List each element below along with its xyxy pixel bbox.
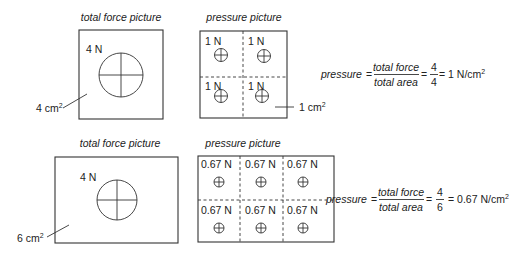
- top-cell-force-label: 1 N: [248, 35, 264, 47]
- top-area-leader-line: [63, 94, 87, 108]
- bottom-cell-force-label: 0.67 N: [245, 158, 276, 170]
- force-arrow-icon: [256, 223, 266, 233]
- force-arrow-icon: [298, 223, 308, 233]
- force-arrow-icon: [256, 177, 266, 187]
- bottom-cell-force-label: 0.67 N: [287, 158, 318, 170]
- force-arrow-icon: [258, 50, 271, 63]
- equation-result: = 1 N/cm2: [439, 68, 485, 80]
- equation-numerator: total force: [373, 61, 419, 73]
- bottom-cell-force-label: 0.67 N: [245, 204, 276, 216]
- force-arrow-icon: [215, 49, 228, 62]
- value-denominator: 4: [431, 76, 437, 88]
- bottom-area-label: 6 cm2: [17, 232, 44, 244]
- bottom-total-force-caption: total force picture: [80, 137, 161, 149]
- top-force-label: 4 N: [86, 43, 102, 55]
- bottom-pressure-caption: pressure picture: [204, 137, 280, 149]
- force-arrow-icon: [97, 180, 137, 220]
- equation-lhs: pressure: [320, 68, 362, 80]
- bottom-total-force-panel: total force picture 4 N 6 cm2: [17, 137, 178, 244]
- top-cell-area-label: 1 cm2: [299, 101, 326, 113]
- top-equation: pressure = total force total area = 4 4 …: [320, 61, 485, 88]
- bottom-equation: pressure = total force total area = 4 6 …: [325, 186, 509, 213]
- equation-denominator: total area: [379, 201, 423, 213]
- value-numerator: 4: [431, 61, 437, 73]
- force-arrow-icon: [214, 223, 224, 233]
- pressure-diagram: total force picture 4 N 4 cm2 pressure p…: [0, 0, 525, 263]
- equation-result: = 0.67 N/cm2: [448, 193, 509, 205]
- equation-denominator: total area: [374, 76, 418, 88]
- value-numerator: 4: [437, 186, 443, 198]
- top-cell-force-label: 1 N: [205, 35, 221, 47]
- bottom-pressure-panel: pressure picture 0.67 N 0.67 N 0.67 N 0.…: [198, 137, 334, 242]
- bottom-area-leader-line: [47, 225, 69, 237]
- force-arrow-icon: [215, 90, 228, 103]
- top-pressure-panel: pressure picture 1 N 1 N 1 N 1 N 1 cm2: [200, 11, 326, 118]
- equation-lhs: pressure: [325, 193, 367, 205]
- value-denominator: 6: [437, 201, 443, 213]
- equals-sign: =: [371, 193, 377, 205]
- equals-sign: =: [426, 193, 432, 205]
- bottom-cell-force-label: 0.67 N: [287, 204, 318, 216]
- equation-numerator: total force: [378, 186, 424, 198]
- equals-sign: =: [421, 68, 427, 80]
- bottom-force-label: 4 N: [80, 171, 96, 183]
- force-arrow-icon: [256, 90, 269, 103]
- equals-sign: =: [366, 68, 372, 80]
- top-total-force-caption: total force picture: [81, 11, 162, 23]
- top-total-force-panel: total force picture 4 N 4 cm2: [36, 11, 163, 119]
- force-arrow-icon: [214, 177, 224, 187]
- bottom-cell-force-label: 0.67 N: [201, 158, 232, 170]
- top-area-label: 4 cm2: [36, 102, 63, 114]
- force-arrow-icon: [298, 177, 308, 187]
- top-pressure-caption: pressure picture: [205, 11, 281, 23]
- bottom-cell-force-label: 0.67 N: [201, 204, 232, 216]
- force-arrow-icon: [99, 53, 143, 97]
